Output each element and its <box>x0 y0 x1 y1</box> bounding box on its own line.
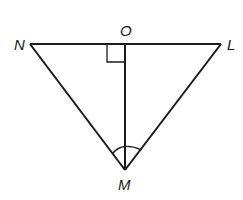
angle-arc-right <box>125 146 142 150</box>
segment-NM <box>30 44 125 170</box>
label-O: O <box>120 22 132 39</box>
label-L: L <box>227 36 235 53</box>
label-N: N <box>14 36 25 53</box>
right-angle-mark <box>107 44 125 62</box>
segment-LM <box>125 44 221 170</box>
angle-arc-left <box>113 147 126 154</box>
triangle-diagram: N O L M <box>0 0 243 200</box>
label-M: M <box>118 176 131 193</box>
